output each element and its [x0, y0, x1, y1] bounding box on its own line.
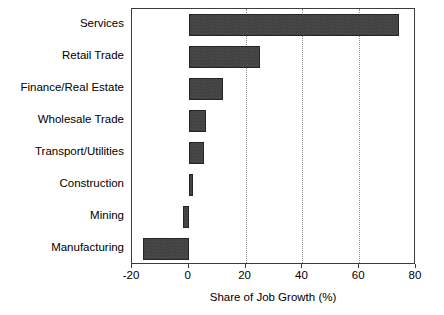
- category-label: Retail Trade: [62, 50, 124, 62]
- category-label: Manufacturing: [51, 242, 124, 254]
- x-tick-label: 80: [409, 270, 422, 282]
- gridline: [302, 9, 303, 263]
- category-label: Finance/Real Estate: [20, 82, 124, 94]
- chart-page: ServicesRetail TradeFinance/Real EstateW…: [0, 0, 444, 315]
- x-tick-mark: [301, 264, 302, 268]
- x-tick-mark: [245, 264, 246, 268]
- bar: [189, 142, 205, 164]
- category-label: Construction: [59, 178, 124, 190]
- category-axis-labels: ServicesRetail TradeFinance/Real EstateW…: [0, 8, 124, 264]
- bar: [189, 46, 260, 68]
- category-label: Mining: [90, 210, 124, 222]
- x-tick-label: 20: [238, 270, 251, 282]
- x-axis-title: Share of Job Growth (%): [131, 291, 415, 303]
- x-tick-mark: [415, 264, 416, 268]
- category-label: Services: [80, 18, 124, 30]
- bar: [189, 78, 223, 100]
- x-tick-mark: [188, 264, 189, 268]
- x-tick-label: 40: [295, 270, 308, 282]
- bar: [183, 206, 189, 228]
- x-tick-label: 60: [352, 270, 365, 282]
- gridline: [359, 9, 360, 263]
- bar: [189, 110, 206, 132]
- x-tick-label: 0: [185, 270, 191, 282]
- x-tick-mark: [358, 264, 359, 268]
- category-label: Transport/Utilities: [35, 146, 124, 158]
- category-label: Wholesale Trade: [38, 114, 124, 126]
- plot-area: [131, 8, 415, 264]
- x-tick-mark: [131, 264, 132, 268]
- bar: [189, 14, 399, 36]
- x-tick-label: -20: [123, 270, 140, 282]
- bar: [189, 174, 193, 196]
- bar: [143, 238, 188, 260]
